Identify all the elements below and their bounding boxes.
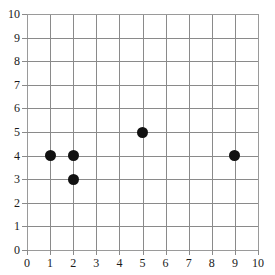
y-axis-tick <box>22 14 27 15</box>
x-axis-tick-label: 2 <box>62 256 84 270</box>
x-axis-tick <box>212 250 213 255</box>
data-point <box>68 174 79 185</box>
x-axis-tick-label: 8 <box>201 256 223 270</box>
x-axis-tick <box>166 250 167 255</box>
x-axis-tick <box>73 250 74 255</box>
gridline-horizontal <box>27 38 258 39</box>
data-point <box>45 150 56 161</box>
data-point <box>68 150 79 161</box>
y-axis-tick-label: 0 <box>0 243 20 257</box>
x-axis-tick-label: 1 <box>39 256 61 270</box>
gridline-horizontal <box>27 203 258 204</box>
y-axis-tick <box>22 108 27 109</box>
gridline-horizontal <box>27 61 258 62</box>
x-axis-tick-label: 3 <box>85 256 107 270</box>
y-axis-tick <box>22 61 27 62</box>
y-axis-tick-label: 5 <box>0 125 20 139</box>
y-axis-tick-label: 7 <box>0 78 20 92</box>
x-axis-tick <box>189 250 190 255</box>
gridline-vertical <box>258 14 259 250</box>
y-axis-tick <box>22 179 27 180</box>
y-axis-tick <box>22 203 27 204</box>
y-axis-tick-label: 3 <box>0 172 20 186</box>
x-axis-tick-label: 4 <box>108 256 130 270</box>
x-axis-tick <box>96 250 97 255</box>
x-axis-tick <box>27 250 28 255</box>
gridline-horizontal <box>27 14 258 15</box>
x-axis-tick-label: 5 <box>132 256 154 270</box>
y-axis-tick <box>22 132 27 133</box>
scatter-plot-figure: 012345678910 012345678910 <box>0 0 275 275</box>
y-axis-tick <box>22 38 27 39</box>
y-axis-tick <box>22 85 27 86</box>
gridline-horizontal <box>27 108 258 109</box>
y-axis-tick-label: 4 <box>0 149 20 163</box>
y-axis-tick-label: 1 <box>0 219 20 233</box>
y-axis-tick-label: 2 <box>0 196 20 210</box>
x-axis-tick <box>235 250 236 255</box>
x-axis-tick-label: 10 <box>247 256 269 270</box>
gridline-horizontal <box>27 226 258 227</box>
gridline-horizontal <box>27 85 258 86</box>
y-axis-tick <box>22 156 27 157</box>
y-axis-tick-label: 10 <box>0 7 20 21</box>
x-axis-tick-label: 7 <box>178 256 200 270</box>
x-axis-tick <box>143 250 144 255</box>
data-point <box>137 127 148 138</box>
y-axis-tick <box>22 226 27 227</box>
y-axis-tick <box>22 250 27 251</box>
x-axis-tick-label: 6 <box>155 256 177 270</box>
x-axis-tick <box>50 250 51 255</box>
x-axis-tick <box>258 250 259 255</box>
x-axis-tick <box>119 250 120 255</box>
y-axis-tick-label: 9 <box>0 31 20 45</box>
x-axis-tick-label: 0 <box>16 256 38 270</box>
x-axis-tick-label: 9 <box>224 256 246 270</box>
y-axis-tick-label: 6 <box>0 101 20 115</box>
y-axis-tick-label: 8 <box>0 54 20 68</box>
gridline-horizontal <box>27 156 258 157</box>
gridline-horizontal <box>27 179 258 180</box>
